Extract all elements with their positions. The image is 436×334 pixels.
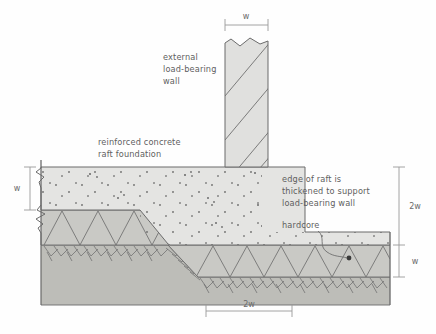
edge-label-line-3: load-bearing wall [282,198,355,208]
dimension-slab-thickness-left [24,167,36,210]
raft-foundation-section-drawing: w w 2w w 2w external load-bearing wall r… [0,0,436,334]
dimension-label-raft-depth: 2w [409,202,421,211]
dimension-hardcore-depth-right [393,245,405,277]
diagram-canvas: w w 2w w 2w external load-bearing wall r… [0,0,436,334]
edge-label-line-2: thickened to support [282,186,371,196]
dimension-label-hardcore-depth: w [412,257,419,266]
annotation-external-wall: external load-bearing wall [163,52,217,86]
wall-label-line-3: wall [163,76,180,86]
dimension-label-thickening-width: 2w [243,300,255,309]
wall-label-line-2: load-bearing [163,64,217,74]
raft-label-line-2: raft foundation [98,149,161,159]
annotation-edge-thickened: edge of raft is thickened to support loa… [282,174,371,208]
dimension-label-slab-thickness: w [14,184,21,193]
wall-label-line-1: external [163,52,198,62]
edge-label-line-1: edge of raft is [282,174,341,184]
hardcore-leader-dot [347,256,352,261]
dimension-raft-depth-right [393,167,405,245]
dimension-label-wall-width: w [243,12,250,21]
annotation-raft-foundation: reinforced concrete raft foundation [98,137,181,159]
hardcore-layer-right [168,245,390,277]
raft-label-line-1: reinforced concrete [98,137,181,147]
hardcore-label: hardcore [282,220,320,230]
